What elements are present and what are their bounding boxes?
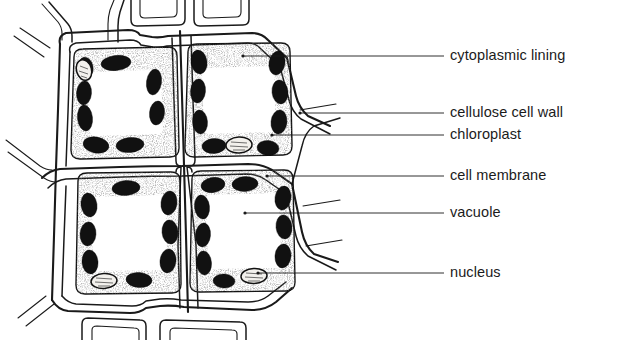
leader-endpoint-nucleus bbox=[256, 271, 259, 274]
diagram-canvas: cytoplasmic liningcellulose cell wallchl… bbox=[0, 0, 620, 340]
leader-endpoint-cell-membrane bbox=[265, 174, 268, 177]
label-text-cellulose-cell-wall: cellulose cell wall bbox=[450, 104, 563, 120]
label-text-cell-membrane: cell membrane bbox=[450, 167, 546, 183]
vacuole-bottom-left bbox=[92, 195, 167, 271]
nucleus-top-right bbox=[226, 136, 253, 153]
cell-bottom-right bbox=[184, 166, 306, 298]
leader-endpoint-vacuole bbox=[243, 211, 246, 214]
cell-top-left bbox=[66, 44, 186, 164]
vacuole-top-right bbox=[202, 66, 276, 134]
leader-endpoint-cytoplasmic-lining bbox=[241, 54, 244, 57]
cell-bottom-left bbox=[70, 168, 190, 300]
nucleus-bottom-right bbox=[241, 268, 268, 284]
plant-cell-diagram: cytoplasmic liningcellulose cell wallchl… bbox=[0, 0, 620, 340]
vacuole-bottom-right bbox=[206, 193, 281, 269]
label-text-chloroplast: chloroplast bbox=[450, 126, 521, 142]
label-text-cytoplasmic-lining: cytoplasmic lining bbox=[450, 47, 565, 63]
label-text-nucleus: nucleus bbox=[450, 264, 501, 280]
cell-top-right bbox=[180, 40, 300, 162]
leader-endpoint-chloroplast bbox=[270, 133, 273, 136]
leader-endpoint-cellulose-cell-wall bbox=[298, 111, 301, 114]
label-text-vacuole: vacuole bbox=[450, 204, 501, 220]
